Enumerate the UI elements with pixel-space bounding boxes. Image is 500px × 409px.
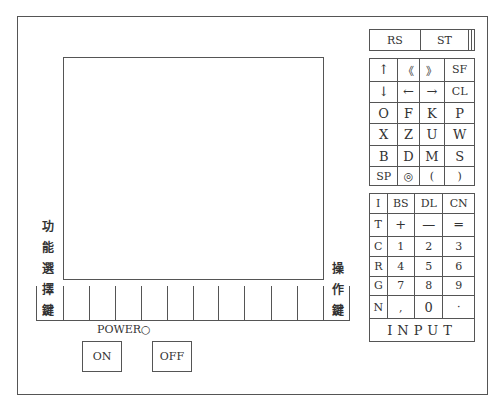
key-b[interactable]: B bbox=[370, 145, 398, 166]
key-st[interactable]: ST bbox=[420, 30, 468, 51]
key-w[interactable]: W bbox=[445, 124, 475, 145]
top-key-row: RS ST bbox=[369, 29, 475, 51]
key-dl[interactable]: DL bbox=[415, 194, 443, 214]
soft-key-divider bbox=[89, 286, 90, 321]
soft-key-divider bbox=[167, 286, 168, 321]
key-7[interactable]: 7 bbox=[387, 276, 415, 296]
power-off-button[interactable]: OFF bbox=[152, 341, 192, 372]
soft-key-divider bbox=[244, 286, 245, 321]
key-c[interactable]: C bbox=[370, 236, 388, 256]
key-up-arrow[interactable]: ↑ bbox=[370, 59, 398, 82]
key-down-arrow[interactable]: ↓ bbox=[370, 81, 398, 102]
key-2[interactable]: 2 bbox=[415, 236, 443, 256]
display-screen bbox=[63, 57, 324, 280]
key-close-paren[interactable]: ) bbox=[445, 167, 475, 186]
key-6[interactable]: 6 bbox=[443, 256, 475, 276]
key-0[interactable]: 0 bbox=[415, 296, 443, 319]
soft-key-divider bbox=[297, 286, 298, 321]
key-1[interactable]: 1 bbox=[387, 236, 415, 256]
key-plus[interactable]: + bbox=[387, 213, 415, 236]
alpha-keypad: ↑ 《 》 SF ↓ ← → CL O F K P X Z U W B D M … bbox=[369, 58, 475, 186]
key-o[interactable]: O bbox=[370, 103, 398, 124]
key-i[interactable]: I bbox=[370, 194, 388, 214]
key-p[interactable]: P bbox=[445, 103, 475, 124]
label-char: 功 bbox=[40, 217, 56, 238]
soft-key-bar bbox=[36, 282, 350, 321]
key-d[interactable]: D bbox=[398, 145, 419, 166]
soft-key-divider bbox=[271, 286, 272, 321]
key-rs[interactable]: RS bbox=[370, 30, 421, 51]
key-page-back[interactable]: 《 bbox=[398, 59, 419, 82]
key-cl[interactable]: CL bbox=[445, 81, 475, 102]
key-dot[interactable]: · bbox=[443, 296, 475, 319]
label-char: 能 bbox=[40, 238, 56, 259]
key-bs[interactable]: BS bbox=[387, 194, 415, 214]
key-r[interactable]: R bbox=[370, 256, 388, 276]
key-comma[interactable]: , bbox=[387, 296, 415, 319]
key-z[interactable]: Z bbox=[398, 124, 419, 145]
key-3[interactable]: 3 bbox=[443, 236, 475, 256]
numeric-keypad: I BS DL CN T + — ═ C 1 2 3 R 4 5 6 G 7 8… bbox=[369, 193, 475, 342]
soft-key-divider bbox=[323, 286, 324, 321]
key-9[interactable]: 9 bbox=[443, 276, 475, 296]
soft-key-divider bbox=[36, 286, 37, 321]
input-key[interactable]: INPUT bbox=[370, 319, 475, 342]
key-s[interactable]: S bbox=[445, 145, 475, 166]
key-right-arrow[interactable]: → bbox=[419, 81, 444, 102]
key-cn[interactable]: CN bbox=[443, 194, 475, 214]
key-sp[interactable]: SP bbox=[370, 167, 398, 186]
key-5[interactable]: 5 bbox=[415, 256, 443, 276]
label-char: 選 bbox=[40, 259, 56, 280]
key-m[interactable]: M bbox=[419, 145, 444, 166]
key-equals[interactable]: ═ bbox=[443, 213, 475, 236]
key-t[interactable]: T bbox=[370, 213, 388, 236]
key-page-forward[interactable]: 》 bbox=[419, 59, 444, 82]
soft-key-divider bbox=[115, 286, 116, 321]
key-u[interactable]: U bbox=[419, 124, 444, 145]
power-on-button[interactable]: ON bbox=[82, 341, 122, 372]
soft-key-divider bbox=[193, 286, 194, 321]
key-minus[interactable]: — bbox=[415, 213, 443, 236]
power-label: POWER○ bbox=[97, 323, 151, 336]
key-at[interactable]: ◎ bbox=[398, 167, 419, 186]
key-open-paren[interactable]: ( bbox=[419, 167, 444, 186]
key-left-arrow[interactable]: ← bbox=[398, 81, 419, 102]
soft-key-divider bbox=[349, 286, 350, 321]
soft-key-divider bbox=[63, 286, 64, 321]
key-4[interactable]: 4 bbox=[387, 256, 415, 276]
soft-key-divider bbox=[141, 286, 142, 321]
key-8[interactable]: 8 bbox=[415, 276, 443, 296]
label-char: 操 bbox=[330, 259, 346, 280]
key-g[interactable]: G bbox=[370, 276, 388, 296]
key-n[interactable]: N bbox=[370, 296, 388, 319]
soft-key-divider bbox=[218, 286, 219, 321]
key-sf[interactable]: SF bbox=[445, 59, 475, 82]
key-blank[interactable] bbox=[471, 30, 474, 51]
key-x[interactable]: X bbox=[370, 124, 398, 145]
key-k[interactable]: K bbox=[419, 103, 444, 124]
key-f[interactable]: F bbox=[398, 103, 419, 124]
